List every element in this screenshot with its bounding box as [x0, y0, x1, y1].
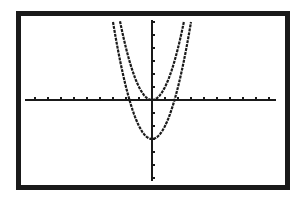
graph-plot — [0, 0, 302, 203]
